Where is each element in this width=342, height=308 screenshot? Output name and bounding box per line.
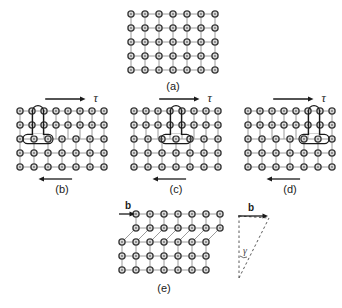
atom-core: [295, 124, 297, 126]
atom-core: [186, 41, 188, 43]
atom-core: [331, 124, 333, 126]
atom-core: [149, 241, 151, 243]
atom-core: [172, 55, 174, 57]
panel-caption-b: (b): [55, 183, 68, 195]
atom-core: [89, 152, 91, 154]
atom-core: [261, 138, 263, 140]
atom-core: [75, 166, 77, 168]
atom-core: [130, 13, 132, 15]
atom-core: [217, 138, 219, 140]
atom-core: [189, 152, 191, 154]
atom-core: [89, 138, 91, 140]
atom-core: [144, 41, 146, 43]
atom-core: [91, 110, 93, 112]
atom-core: [149, 227, 151, 229]
atom-core: [121, 255, 123, 257]
atom-core: [259, 110, 261, 112]
atom-core: [133, 110, 135, 112]
atom-core: [177, 213, 179, 215]
atom-core: [145, 110, 147, 112]
atom-core: [331, 110, 333, 112]
atom-core: [214, 13, 216, 15]
atom-core: [303, 138, 305, 140]
atom-core: [200, 41, 202, 43]
atom-core: [219, 213, 221, 215]
atom-core: [247, 110, 249, 112]
atom-core: [67, 110, 69, 112]
atom-core: [147, 138, 149, 140]
atom-core: [103, 110, 105, 112]
atom-core: [130, 27, 132, 29]
atom-core: [103, 152, 105, 154]
atom-core: [317, 166, 319, 168]
atom-core: [283, 110, 285, 112]
atom-core: [193, 110, 195, 112]
atom-core: [163, 269, 165, 271]
atom-core: [47, 166, 49, 168]
atom-core: [135, 213, 137, 215]
atom-core: [89, 166, 91, 168]
atom-core: [19, 166, 21, 168]
atom-core: [91, 124, 93, 126]
atom-core: [133, 152, 135, 154]
atom-core: [158, 41, 160, 43]
atom-core: [271, 110, 273, 112]
atom-core: [19, 138, 21, 140]
atom-core: [121, 269, 123, 271]
atom-core: [61, 152, 63, 154]
atom-core: [175, 152, 177, 154]
atom-core: [317, 138, 319, 140]
atom-core: [214, 27, 216, 29]
atom-core: [161, 152, 163, 154]
atom-core: [295, 110, 297, 112]
atom-core: [177, 255, 179, 257]
atom-core: [103, 138, 105, 140]
atom-core: [149, 213, 151, 215]
atom-core: [217, 124, 219, 126]
atom-core: [317, 152, 319, 154]
atom-core: [203, 152, 205, 154]
atom-core: [283, 124, 285, 126]
atom-core: [261, 152, 263, 154]
atom-core: [331, 152, 333, 154]
atom-core: [205, 241, 207, 243]
atom-core: [158, 69, 160, 71]
atom-core: [19, 110, 21, 112]
atom-core: [67, 124, 69, 126]
atom-core: [247, 138, 249, 140]
atom-core: [200, 55, 202, 57]
panel-caption-c: (c): [170, 183, 183, 195]
atom-core: [191, 241, 193, 243]
atom-core: [214, 55, 216, 57]
atom-core: [61, 138, 63, 140]
atom-core: [177, 227, 179, 229]
atom-core: [19, 124, 21, 126]
atom-core: [144, 13, 146, 15]
atom-core: [200, 27, 202, 29]
atom-core: [214, 41, 216, 43]
atom-core: [33, 152, 35, 154]
atom-core: [205, 124, 207, 126]
dislocation-slip-figure: (a)τ(b)τ(c)τ(d)b(e)bγ: [0, 0, 342, 308]
atom-core: [79, 110, 81, 112]
atom-core: [144, 27, 146, 29]
atom-core: [149, 269, 151, 271]
atom-core: [172, 69, 174, 71]
atom-core: [217, 166, 219, 168]
atom-core: [157, 124, 159, 126]
atom-core: [55, 124, 57, 126]
atom-core: [191, 213, 193, 215]
atom-core: [135, 241, 137, 243]
atom-core: [133, 124, 135, 126]
atom-core: [331, 138, 333, 140]
atom-core: [103, 166, 105, 168]
atom-core: [135, 227, 137, 229]
atom-core: [103, 124, 105, 126]
atom-core: [275, 166, 277, 168]
atom-core: [177, 241, 179, 243]
atom-core: [205, 227, 207, 229]
atom-core: [75, 138, 77, 140]
atom-core: [289, 138, 291, 140]
atom-core: [157, 110, 159, 112]
atom-core: [175, 166, 177, 168]
